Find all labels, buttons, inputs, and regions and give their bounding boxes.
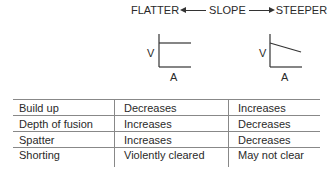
table-row: Spatter Increases Decreases [13, 132, 320, 148]
steeper-va-graph [268, 33, 304, 68]
steeper-curve-icon [268, 33, 304, 68]
table-cell: Increases [229, 100, 321, 116]
left-arrow-icon [182, 10, 206, 11]
table-cell: Build up [13, 100, 115, 116]
flatter-curve-icon [157, 33, 193, 68]
flatter-a-label: A [170, 71, 177, 83]
flatter-va-graph [157, 33, 193, 68]
flatter-label: FLATTER [131, 4, 179, 16]
table-row: Build up Decreases Increases [13, 100, 320, 116]
steeper-v-label: V [259, 47, 266, 59]
flatter-v-label: V [147, 47, 154, 59]
slope-header: FLATTER SLOPE STEEPER [131, 4, 327, 16]
table-cell: Increases [115, 116, 229, 132]
table-cell: Decreases [229, 116, 321, 132]
right-arrow-icon [249, 10, 273, 11]
table-cell: Decreases [229, 132, 321, 148]
table-cell: Depth of fusion [13, 116, 115, 132]
steeper-label: STEEPER [276, 4, 327, 16]
table-cell: May not clear [229, 148, 321, 168]
steeper-a-label: A [281, 71, 288, 83]
slope-effects-table: Build up Decreases Increases Depth of fu… [13, 99, 320, 167]
table-cell: Violently cleared [115, 148, 229, 168]
table-row: Shorting Violently cleared May not clear [13, 148, 320, 168]
table-row: Depth of fusion Increases Decreases [13, 116, 320, 132]
table-cell: Spatter [13, 132, 115, 148]
table-cell: Shorting [13, 148, 115, 168]
table-cell: Decreases [115, 100, 229, 116]
slope-label: SLOPE [209, 4, 246, 16]
table-cell: Increases [115, 132, 229, 148]
